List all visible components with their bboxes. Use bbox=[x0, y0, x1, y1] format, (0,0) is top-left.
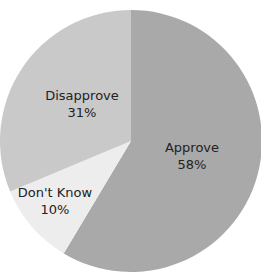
slice-label-dontknow-pct: 10% bbox=[41, 202, 70, 217]
pie-slices bbox=[0, 10, 261, 272]
slice-label-disapprove-pct: 31% bbox=[68, 105, 97, 120]
slice-label-approve-name: Approve bbox=[165, 140, 219, 155]
pie-chart: Approve 58% Disapprove 31% Don't Know 10… bbox=[0, 0, 261, 272]
slice-label-approve-pct: 58% bbox=[178, 157, 207, 172]
slice-label-disapprove-name: Disapprove bbox=[45, 88, 119, 103]
slice-label-dontknow-name: Don't Know bbox=[18, 185, 93, 200]
